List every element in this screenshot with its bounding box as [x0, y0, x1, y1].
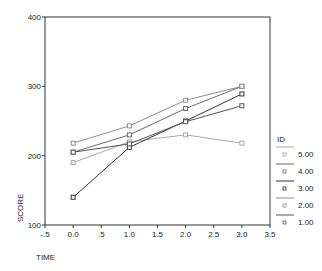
x-tick-label: 1.0: [124, 230, 136, 239]
legend-marker: [283, 204, 286, 207]
legend-label: 4.00: [298, 167, 314, 176]
x-tick-label: 3.0: [236, 230, 248, 239]
legend-label: 5.00: [298, 150, 314, 159]
data-point-marker: [184, 133, 188, 137]
legend-label: 2.00: [298, 201, 314, 210]
legend-marker: [283, 187, 286, 190]
x-tick-label: 3.5: [264, 230, 276, 239]
y-tick-label: 400: [28, 13, 42, 22]
chart-series: [71, 84, 244, 199]
chart-axes: -.50.0.51.01.52.02.53.03.5100200300400: [28, 13, 276, 239]
x-tick-label: 2.0: [180, 230, 192, 239]
data-point-marker: [240, 92, 244, 96]
data-point-marker: [71, 161, 75, 165]
legend-marker: [283, 221, 286, 224]
legend-title: ID: [277, 135, 285, 144]
chart-legend: ID5.004.003.002.001.00: [276, 135, 314, 227]
legend-label: 3.00: [298, 184, 314, 193]
y-tick-label: 100: [28, 221, 42, 230]
data-point-marker: [127, 124, 131, 128]
line-chart: -.50.0.51.01.52.02.53.03.5100200300400 I…: [0, 0, 322, 271]
x-tick-label: 2.5: [208, 230, 220, 239]
y-tick-label: 200: [28, 152, 42, 161]
y-axis-label: SCORE: [16, 194, 25, 222]
data-point-marker: [127, 133, 131, 137]
x-axis-label: TIME: [36, 253, 55, 262]
legend-label: 1.00: [298, 218, 314, 227]
data-point-marker: [71, 141, 75, 145]
data-point-marker: [184, 98, 188, 102]
data-point-marker: [240, 84, 244, 88]
x-tick-label: 1.5: [152, 230, 164, 239]
data-point-marker: [71, 195, 75, 199]
x-tick-label: 0.0: [68, 230, 80, 239]
legend-marker: [283, 153, 286, 156]
series-line: [73, 94, 242, 197]
data-point-marker: [184, 107, 188, 111]
x-tick-label: .5: [98, 230, 105, 239]
y-tick-label: 300: [28, 82, 42, 91]
data-point-marker: [71, 150, 75, 154]
data-point-marker: [240, 104, 244, 108]
data-point-marker: [127, 142, 131, 146]
series-line: [73, 86, 242, 152]
legend-marker: [283, 170, 286, 173]
data-point-marker: [240, 141, 244, 145]
x-tick-label: -.5: [40, 230, 50, 239]
data-point-marker: [184, 120, 188, 124]
